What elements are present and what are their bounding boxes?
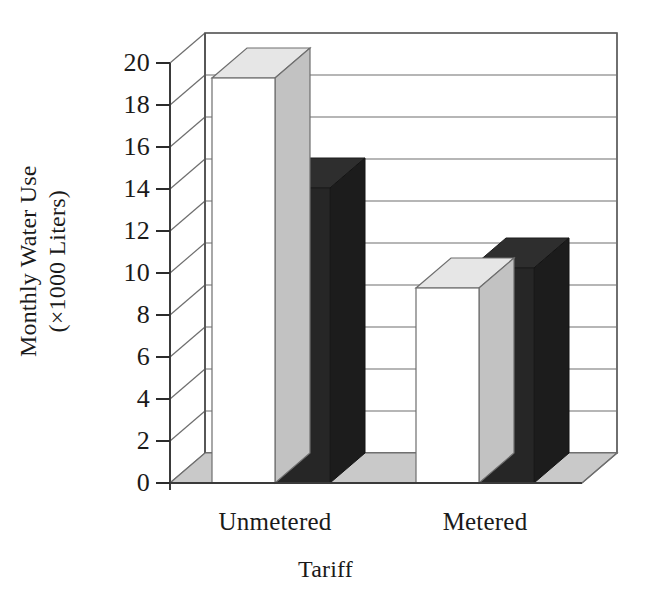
y-tick-label-20: 20 bbox=[84, 50, 150, 76]
left-wall bbox=[170, 33, 205, 490]
y-tick-label-18: 18 bbox=[84, 92, 150, 118]
y-tick-marks bbox=[156, 63, 170, 483]
y-tick-label-14: 14 bbox=[84, 176, 150, 202]
x-tick-label-unmetered: Unmetered bbox=[200, 508, 350, 536]
x-tick-label-metered: Metered bbox=[415, 508, 555, 536]
x-axis-title: Tariff bbox=[0, 556, 651, 583]
y-tick-label-16: 16 bbox=[84, 134, 150, 160]
y-tick-label-4: 4 bbox=[84, 386, 150, 412]
y-axis-title-line2: (×1000 Liters) bbox=[43, 71, 72, 451]
y-tick-label-6: 6 bbox=[84, 344, 150, 370]
y-tick-label-8: 8 bbox=[84, 302, 150, 328]
y-tick-label-10: 10 bbox=[84, 260, 150, 286]
bar-unmetered-front-series bbox=[212, 48, 310, 483]
bar-metered-front-series bbox=[416, 258, 514, 483]
figure-3d-bar-chart: 20 18 16 14 12 10 8 6 4 2 0 Monthly Wate… bbox=[0, 0, 651, 605]
y-tick-label-2: 2 bbox=[84, 428, 150, 454]
y-tick-label-0: 0 bbox=[84, 470, 150, 496]
y-tick-label-12: 12 bbox=[84, 218, 150, 244]
y-axis-title: Monthly Water Use (×1000 Liters) bbox=[14, 71, 73, 451]
y-axis-title-line1: Monthly Water Use bbox=[15, 165, 41, 357]
